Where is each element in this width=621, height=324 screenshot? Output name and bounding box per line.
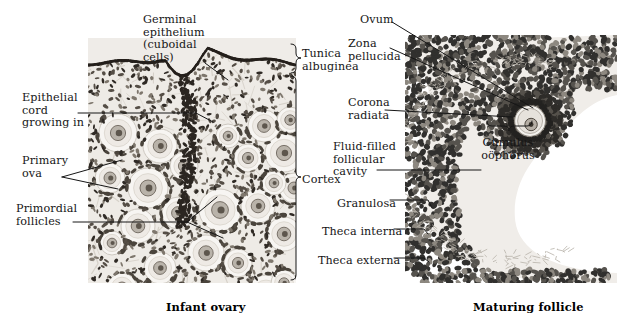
micrograph-infant-ovary bbox=[88, 38, 296, 283]
label-theca-externa: Theca externa bbox=[318, 255, 400, 268]
figure-ovarian-histology: Germinal epithelium (cuboidal cells)Epit… bbox=[0, 0, 621, 324]
label-zona-pellucida: Zona pellucida bbox=[348, 38, 401, 63]
caption-maturing-follicle: Maturing follicle bbox=[473, 300, 584, 314]
label-cumulus-oophorus: Cumulus oöphorus bbox=[463, 137, 553, 162]
label-fluid-filled-cavity: Fluid-filled follicular cavity bbox=[333, 141, 396, 179]
label-corona-radiata: Corona radiata bbox=[348, 97, 390, 122]
label-primary-ova: Primary ova bbox=[22, 155, 68, 180]
label-ovum: Ovum bbox=[360, 14, 394, 27]
label-epithelial-cord: Epithelial cord growing in bbox=[22, 92, 84, 130]
label-theca-interna: Theca interna bbox=[322, 226, 402, 239]
infant-ovary-tissue bbox=[88, 38, 296, 283]
caption-infant-ovary: Infant ovary bbox=[166, 300, 245, 314]
label-germinal-epithelium: Germinal epithelium (cuboidal cells) bbox=[143, 14, 205, 64]
label-granulosa: Granulosa bbox=[337, 198, 396, 211]
label-primordial-follicles: Primordial follicles bbox=[16, 203, 77, 228]
